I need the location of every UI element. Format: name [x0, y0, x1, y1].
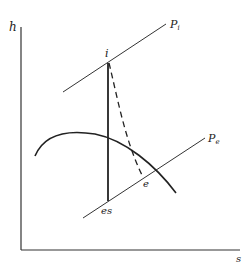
actual-expansion-curve — [109, 63, 142, 175]
saturation-dome — [35, 132, 176, 193]
point-es-label: es — [101, 205, 112, 216]
isobar-pe-label: Pe — [207, 132, 220, 146]
x-axis-label: s — [236, 253, 241, 264]
y-axis-label: h — [9, 20, 17, 34]
point-i-label: i — [105, 47, 109, 60]
isobar-pi — [63, 24, 166, 92]
hs-diagram: h s Pi Pe i es e — [0, 0, 248, 264]
isobar-pi-label: Pi — [169, 18, 180, 32]
point-e-label: e — [143, 178, 149, 189]
